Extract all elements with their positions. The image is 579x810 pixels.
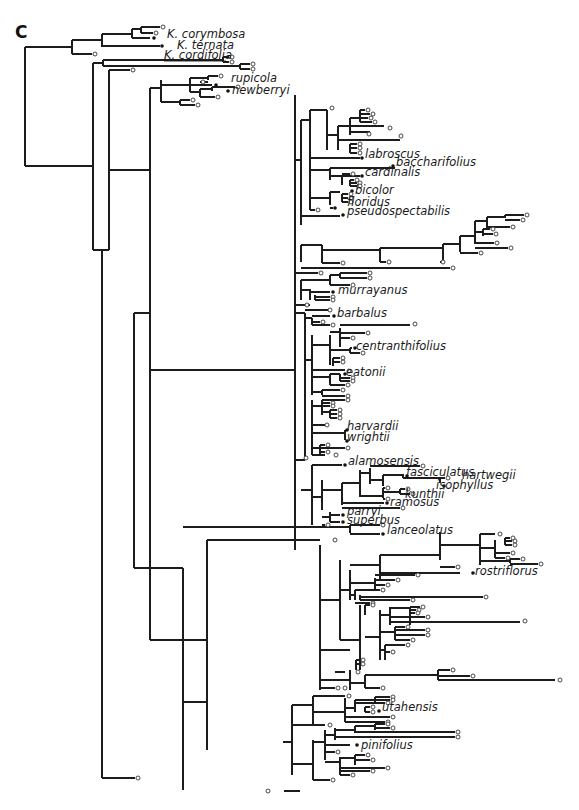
open-tip-icon <box>334 453 338 457</box>
open-tip-icon <box>371 705 375 709</box>
taxon-label-newberryi: newberryi <box>232 83 290 97</box>
open-tip-icon <box>216 95 220 99</box>
taxon-label-wrightii: wrightii <box>347 430 391 444</box>
open-tip-icon <box>266 789 270 793</box>
open-tip-icon <box>343 686 347 690</box>
open-tip-icon <box>539 562 543 566</box>
open-tip-icon <box>558 678 562 682</box>
open-tip-icon <box>368 276 372 280</box>
taxon-label-isophyllus: isophyllus <box>436 478 493 492</box>
taxon-label-centranthifolius: centranthifolius <box>356 339 446 353</box>
filled-tip-icon <box>332 314 336 318</box>
filled-tip-icon <box>377 709 381 713</box>
open-tip-icon <box>491 227 495 231</box>
open-tip-icon <box>351 379 355 383</box>
filled-tip-icon <box>360 156 364 160</box>
filled-tip-icon <box>331 290 335 294</box>
open-tip-icon <box>346 446 350 450</box>
open-tip-icon <box>406 643 410 647</box>
open-tip-icon <box>191 98 195 102</box>
open-tip-icon <box>509 246 513 250</box>
open-tip-icon <box>386 766 390 770</box>
open-tip-icon <box>358 142 362 146</box>
open-tip-icon <box>421 605 425 609</box>
taxon-label-rostriflorus: rostriflorus <box>475 564 538 578</box>
open-tip-icon <box>371 603 375 607</box>
filled-tip-icon <box>381 532 385 536</box>
open-tip-icon <box>326 443 330 447</box>
open-tip-icon <box>326 450 330 454</box>
open-tip-icon <box>511 225 515 229</box>
open-tip-icon <box>219 74 223 78</box>
open-tip-icon <box>328 308 332 312</box>
open-tip-icon <box>338 408 342 412</box>
phylogenetic-tree: K. corymbosaK. ternataK. cordifoliarupic… <box>0 0 579 810</box>
open-tip-icon <box>371 758 375 762</box>
open-tip-icon <box>304 456 308 460</box>
filled-tip-icon <box>343 463 347 467</box>
open-tip-icon <box>388 126 392 130</box>
taxon-label-cardinalis: cardinalis <box>365 165 420 179</box>
open-tip-icon <box>368 271 372 275</box>
open-tip-icon <box>341 360 345 364</box>
open-tip-icon <box>316 208 320 212</box>
open-tip-icon <box>411 598 415 602</box>
open-tip-icon <box>331 404 335 408</box>
open-tip-icon <box>366 331 370 335</box>
filled-tip-icon <box>226 89 230 93</box>
open-tip-icon <box>411 638 415 642</box>
open-tip-icon <box>391 715 395 719</box>
open-tip-icon <box>371 769 375 773</box>
open-tip-icon <box>456 565 460 569</box>
open-tip-icon <box>347 694 351 698</box>
open-tip-icon <box>336 686 340 690</box>
open-tip-icon <box>391 650 395 654</box>
open-tip-icon <box>386 486 390 490</box>
open-tip-icon <box>471 674 475 678</box>
open-tip-icon <box>336 750 340 754</box>
open-tip-icon <box>396 578 400 582</box>
open-tip-icon <box>346 383 350 387</box>
open-tip-icon <box>351 773 355 777</box>
open-tip-icon <box>451 668 455 672</box>
filled-tip-icon <box>341 213 345 217</box>
taxon-label-ramosus: ramosus <box>390 495 439 509</box>
open-tip-icon <box>331 323 335 327</box>
taxon-label-eatonii: eatonii <box>346 365 386 379</box>
open-tip-icon <box>387 260 391 264</box>
taxon-label-lanceolatus: lanceolatus <box>387 523 453 537</box>
open-tip-icon <box>371 112 375 116</box>
open-tip-icon <box>479 251 483 255</box>
open-tip-icon <box>136 776 140 780</box>
open-tip-icon <box>330 106 334 110</box>
open-tip-icon <box>154 31 158 35</box>
open-tip-icon <box>161 25 165 29</box>
taxon-label-barbalus: barbalus <box>337 306 387 320</box>
open-tip-icon <box>321 320 325 324</box>
open-tip-icon <box>511 551 515 555</box>
open-tip-icon <box>451 266 455 270</box>
taxon-label-utahensis: utahensis <box>382 700 438 714</box>
filled-tip-icon <box>333 206 337 210</box>
filled-tip-icon <box>385 501 389 505</box>
taxon-label-murrayanus: murrayanus <box>338 283 407 297</box>
open-tip-icon <box>369 116 373 120</box>
open-tip-icon <box>495 241 499 245</box>
open-tip-icon <box>367 132 371 136</box>
open-tip-icon <box>456 735 460 739</box>
open-tip-icon <box>426 628 430 632</box>
open-tip-icon <box>494 232 498 236</box>
tree-branches <box>25 27 555 791</box>
open-tip-icon <box>513 539 517 543</box>
open-tip-icon <box>373 120 377 124</box>
open-tip-icon <box>328 723 332 727</box>
open-tip-icon <box>456 730 460 734</box>
open-tip-icon <box>326 523 330 527</box>
open-tip-icon <box>525 213 529 217</box>
open-tip-icon <box>319 271 323 275</box>
open-tip-icon <box>386 722 390 726</box>
open-tip-icon <box>338 412 342 416</box>
open-tip-icon <box>361 662 365 666</box>
open-tip-icon <box>305 303 309 307</box>
open-tip-icon <box>366 108 370 112</box>
